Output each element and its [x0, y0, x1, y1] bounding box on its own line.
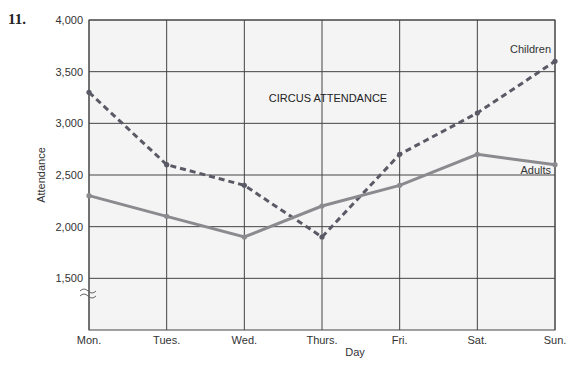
data-point [86, 90, 91, 95]
x-tick-label: Fri. [392, 334, 408, 346]
series-label-adults: Adults [520, 164, 551, 176]
chart-title: CIRCUS ATTENDANCE [269, 92, 387, 104]
data-point [552, 59, 557, 64]
data-point [552, 162, 557, 167]
y-tick-label: 2,500 [55, 169, 83, 181]
data-point [242, 234, 247, 239]
data-point [397, 183, 402, 188]
data-point [319, 203, 324, 208]
data-point [164, 162, 169, 167]
y-tick-label: 3,000 [55, 117, 83, 129]
data-point [397, 152, 402, 157]
data-point [242, 183, 247, 188]
y-tick-label: 3,500 [55, 66, 83, 78]
x-tick-label: Sun. [544, 334, 567, 346]
y-tick-label: 2,000 [55, 221, 83, 233]
x-tick-label: Mon. [77, 334, 101, 346]
series-label-children: Children [510, 43, 551, 55]
x-tick-label: Tues. [153, 334, 180, 346]
x-tick-label: Wed. [232, 334, 257, 346]
data-point [319, 234, 324, 239]
data-point [164, 214, 169, 219]
data-point [86, 193, 91, 198]
x-tick-label: Sat. [468, 334, 488, 346]
data-point [475, 110, 480, 115]
y-tick-label: 4,000 [55, 14, 83, 26]
line-chart: 1,5002,0002,5003,0003,5004,000Mon.Tues.W… [0, 0, 574, 367]
data-point [475, 152, 480, 157]
x-axis-label: Day [345, 346, 365, 358]
y-tick-label: 1,500 [55, 272, 83, 284]
x-tick-label: Thurs. [306, 334, 337, 346]
y-axis-label: Attendance [35, 147, 47, 203]
